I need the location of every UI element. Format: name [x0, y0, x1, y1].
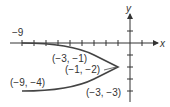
x-axis-label: x	[159, 38, 166, 49]
y-axis-label: y	[125, 3, 132, 14]
point-label: (−3, −3)	[86, 87, 121, 98]
x-tick-label-neg9: −9	[12, 27, 24, 38]
point-label: (−9, −4)	[10, 77, 45, 88]
parabola-diagram: −9 x y (−3, −1) (−1, −2) (−9, −4) (−3, −…	[0, 0, 170, 107]
point-label: (−1, −2)	[65, 64, 100, 75]
point-label: (−3, −1)	[52, 53, 87, 64]
